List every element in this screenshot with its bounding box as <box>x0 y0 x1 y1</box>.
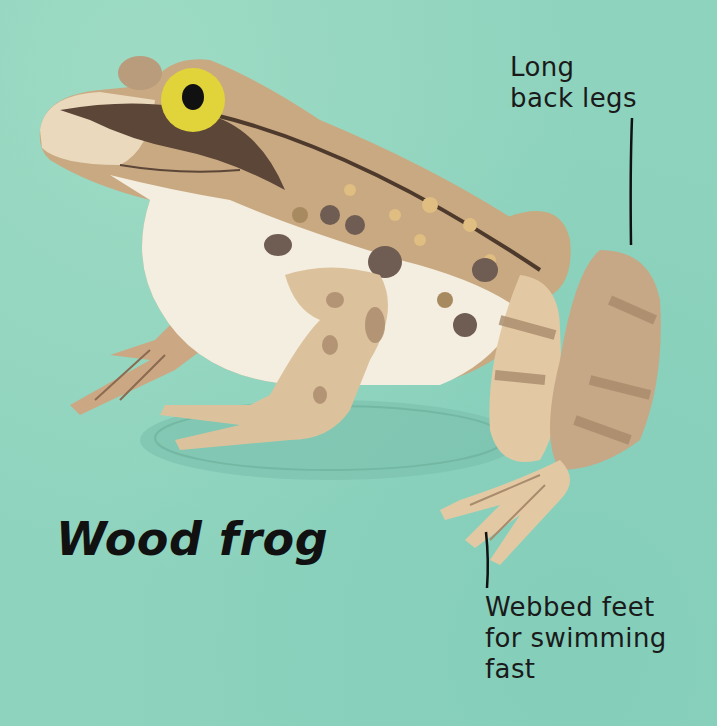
annotation-line: back legs <box>510 83 637 114</box>
annotation-long-back-legs: Long back legs <box>510 52 637 114</box>
annotation-webbed-feet: Webbed feet for swimming fast <box>485 592 667 685</box>
pointer-line-webbed-feet <box>486 532 488 588</box>
annotation-line: fast <box>485 654 667 685</box>
annotation-line: for swimming <box>485 623 667 654</box>
annotation-line: Webbed feet <box>485 592 667 623</box>
pointer-line-back-legs <box>631 118 632 245</box>
species-title: Wood frog <box>56 512 328 566</box>
webbed-foot <box>440 460 570 565</box>
annotation-line: Long <box>510 52 637 83</box>
page-background: Long back legs Webbed feet for swimming … <box>0 0 717 726</box>
